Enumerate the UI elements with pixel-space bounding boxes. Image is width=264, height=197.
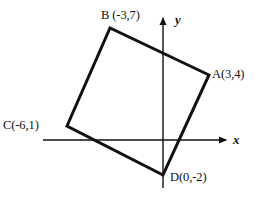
- vertex-label-b: B (-3,7): [101, 9, 140, 22]
- vertex-label-c: C(-6,1): [3, 119, 39, 132]
- geometry-canvas: [0, 0, 264, 197]
- quadrilateral-abcd: [67, 28, 209, 175]
- vertex-label-a: A(3,4): [212, 68, 244, 81]
- coordinate-figure: B (-3,7) A(3,4) C(-6,1) D(0,-2) y x: [0, 0, 264, 197]
- vertex-label-d: D(0,-2): [170, 171, 206, 184]
- x-axis-label: x: [233, 133, 240, 146]
- y-axis-label: y: [175, 13, 181, 26]
